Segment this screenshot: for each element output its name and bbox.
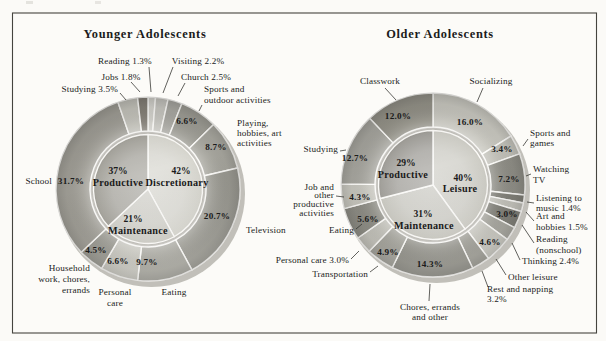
inner-label-productive: Productive (93, 177, 144, 188)
pct-other-leisure: 4.6% (479, 237, 500, 247)
label-visiting: Visiting 2.2% (172, 56, 225, 66)
pct-socializing: 16.0% (457, 117, 483, 127)
inner-label-productive: Productive (378, 169, 429, 180)
inner-pct-maintenance: 21% (123, 213, 142, 224)
figure-stage: Younger Adolescents Older Adolescents 42… (0, 0, 606, 341)
pct-television: 20.7% (204, 211, 230, 221)
inner-pct-productive: 29% (396, 157, 415, 168)
inner-pct-maintenance: 31% (413, 208, 432, 219)
label-personal-care: care (107, 298, 123, 308)
label-school: School (26, 176, 53, 186)
label-sports-and-outdoor-activities: Sports and (204, 84, 245, 94)
label-television: Television (246, 225, 286, 235)
pct-sports-and-games: 3.4% (491, 144, 512, 154)
label-studying: Studying 3.5% (61, 84, 118, 94)
pct-studying: 12.7% (342, 153, 368, 163)
label-classwork: Classwork (360, 76, 400, 86)
scan-artifact (95, 1, 101, 4)
label-personal-care: Personal care 3.0% (276, 255, 350, 265)
label-reading: Reading 1.3% (98, 56, 152, 66)
label-listening-to-music: Listening to (536, 193, 582, 203)
label-art-and-hobbies: Art and (536, 211, 565, 221)
pct-eating: 9.7% (136, 257, 157, 267)
label-watching-tv: TV (533, 175, 546, 185)
label-art-and-hobbies: hobbies 1.5% (536, 222, 588, 232)
label-watching-tv: Watching (533, 164, 569, 174)
inner-label-maintenance: Maintenance (108, 225, 168, 236)
label-transportation: Transportation (312, 269, 368, 279)
pct-household-work-chores-errands: 4.5% (85, 245, 106, 255)
label-other-leisure: Other leisure (508, 272, 558, 282)
label-eating: Eating (162, 287, 187, 297)
label-sports-and-games: games (530, 138, 554, 148)
label-personal-care: Personal (99, 287, 132, 297)
inner-label-leisure: Leisure (443, 183, 478, 194)
inner-label-maintenance: Maintenance (394, 220, 454, 231)
label-church: Church 2.5% (181, 72, 231, 82)
inner-pct-discretionary: 42% (171, 165, 190, 176)
inner-pct-productive: 37% (108, 165, 127, 176)
pct-eating: 5.6% (357, 214, 378, 224)
label-thinking: Thinking 2.4% (522, 256, 579, 266)
label-playing-hobbies-art-activities: Playing, (237, 118, 269, 128)
label-reading-nonschool: Reading (536, 234, 568, 244)
label-household-work-chores-errands: Household (49, 263, 90, 273)
pct-playing-hobbies-art-activities: 8.7% (205, 142, 226, 152)
label-household-work-chores-errands: errands (62, 285, 90, 295)
label-rest-and-napping: 3.2% (487, 294, 507, 304)
label-chores-errands-and-other: Chores, errands (400, 302, 460, 312)
label-rest-and-napping: Rest and napping (487, 284, 553, 294)
pct-transportation: 4.9% (377, 247, 398, 257)
label-sports-and-games: Sports and (530, 128, 571, 138)
chart-title-older: Older Adolescents (386, 27, 494, 41)
scan-artifact (26, 1, 33, 4)
label-household-work-chores-errands: work, chores, (38, 274, 90, 284)
pct-watching-tv: 7.2% (498, 174, 519, 184)
label-eating: Eating (329, 225, 354, 235)
pct-reading-nonschool: 3.0% (496, 209, 517, 219)
pct-school: 31.7% (58, 176, 84, 186)
label-jobs: Jobs 1.8% (101, 72, 140, 82)
label-socializing: Socializing (470, 76, 513, 86)
label-chores-errands-and-other: and other (412, 312, 448, 322)
pct-sports-and-outdoor-activities: 6.6% (176, 116, 197, 126)
chart-title-younger: Younger Adolescents (84, 27, 207, 41)
pct-chores-errands-and-other: 14.3% (417, 259, 443, 269)
label-playing-hobbies-art-activities: hobbies, art (237, 128, 282, 138)
nested-donut-figure: Younger Adolescents Older Adolescents 42… (0, 0, 606, 341)
inner-label-discretionary: Discretionary (145, 177, 208, 188)
label-job-and-other-productive-activities: activities (299, 208, 334, 218)
pct-job-and-other-productive-activities: 4.3% (349, 192, 370, 202)
label-sports-and-outdoor-activities: outdoor activities (204, 95, 271, 105)
label-reading-nonschool: (nonschool) (536, 245, 582, 255)
pct-personal-care: 6.6% (107, 256, 128, 266)
label-studying: Studying (304, 144, 339, 154)
inner-pct-leisure: 40% (453, 172, 472, 183)
label-playing-hobbies-art-activities: activities (237, 138, 272, 148)
pct-classwork: 12.0% (385, 111, 411, 121)
